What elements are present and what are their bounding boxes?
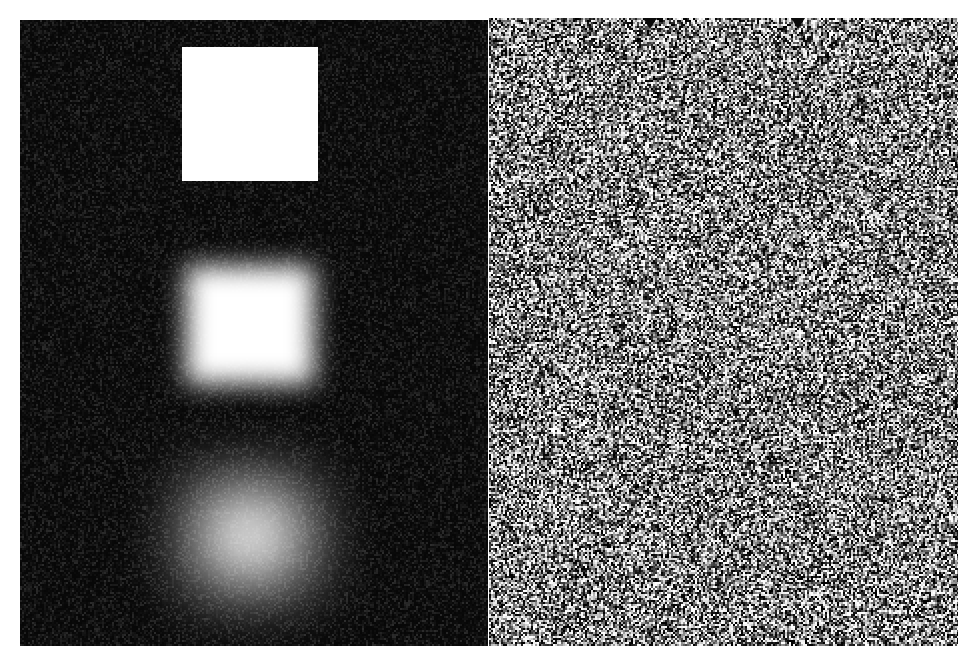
triangle-down-icon-marker-right [791,18,805,29]
square-medium-blur [186,266,314,384]
figure-root [0,0,973,659]
triangle-down-icon-marker-left [643,18,657,29]
blur-sequence-panel [20,20,488,646]
square-sharp [182,47,318,181]
noise-field-panel [489,18,958,646]
square-heavy-blur [196,488,304,584]
noise-field-texture [489,18,958,646]
